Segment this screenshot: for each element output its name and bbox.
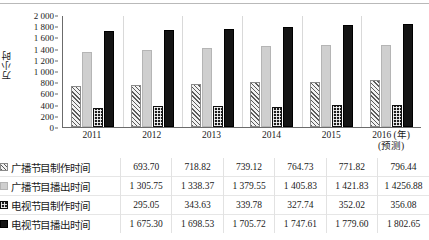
table-row: 电视节目制作时间295.05343.63339.78327.74352.0235… <box>0 196 429 215</box>
bar <box>142 50 152 127</box>
table-cell: 1 779.60 <box>326 215 377 234</box>
table-cell: 1 405.83 <box>275 177 326 196</box>
bar <box>224 29 234 127</box>
table-cell: 771.82 <box>326 158 377 177</box>
table-cell: 1 338.37 <box>172 177 223 196</box>
bar <box>392 105 402 127</box>
table-row: 电视节目播出时间1 675.301 698.531 705.721 747.61… <box>0 215 429 234</box>
table-row: 广播节目播出时间1 305.751 338.371 379.551 405.83… <box>0 177 429 196</box>
y-tick-label: 1 200 <box>34 56 54 65</box>
bar-group <box>361 16 421 127</box>
x-axis-sublabel: (预测) <box>361 141 421 152</box>
y-tick-label: 200 <box>41 112 55 121</box>
y-tick-label: 1 600 <box>34 34 54 43</box>
x-axis-label: 2014 <box>241 130 301 156</box>
y-tick-mark <box>55 105 58 106</box>
bar-groups <box>63 16 421 127</box>
y-tick-mark <box>55 128 58 129</box>
bar <box>321 45 331 127</box>
data-table-wrapper: 广播节目制作时间693.70718.82739.12764.73771.8279… <box>0 158 429 240</box>
y-tick-label: 800 <box>41 79 55 88</box>
bar <box>202 48 212 127</box>
x-axis-label: 2015 <box>301 130 361 156</box>
bar <box>272 107 282 127</box>
bar <box>82 52 92 127</box>
table-cell: 1 802.65 <box>378 215 429 234</box>
table-cell: 343.63 <box>172 196 223 215</box>
bar <box>261 46 271 127</box>
x-axis-label: 2011 <box>62 130 122 156</box>
y-tick-label: 1 000 <box>34 68 54 77</box>
x-axis-label: 2016 (年)(预测) <box>361 130 421 156</box>
table-cell: 739.12 <box>223 158 274 177</box>
x-axis-label-text: 2015 <box>322 130 341 140</box>
table-cell: 1 421.83 <box>326 177 377 196</box>
x-axis-label-text: 2014 <box>262 130 281 140</box>
x-axis-label: 2012 <box>122 130 182 156</box>
table-cell: 339.78 <box>223 196 274 215</box>
legend-swatch-icon <box>0 163 8 171</box>
series-name: 电视节目制作时间 <box>11 201 89 212</box>
y-tick-label: 1 800 <box>34 23 54 32</box>
bar <box>93 108 103 127</box>
y-tick-mark <box>55 49 58 50</box>
bar <box>104 31 114 127</box>
series-name: 广播节目制作时间 <box>11 163 89 174</box>
bar <box>370 80 380 127</box>
bar <box>343 25 353 127</box>
series-legend-label: 电视节目播出时间 <box>0 215 121 234</box>
series-legend-label: 广播节目制作时间 <box>0 158 121 177</box>
series-legend-label: 广播节目播出时间 <box>0 177 121 196</box>
series-legend-label: 电视节目制作时间 <box>0 196 121 215</box>
y-tick-mark <box>55 94 58 95</box>
table-cell: 1 747.61 <box>275 215 326 234</box>
table-cell: 1 675.30 <box>121 215 172 234</box>
y-tick-label: 2 000 <box>34 12 54 21</box>
table-cell: 693.70 <box>121 158 172 177</box>
y-axis-title: 万小时 <box>2 50 18 80</box>
table-cell: 796.44 <box>378 158 429 177</box>
y-axis-ticks: 02004006008001 0001 2001 4001 6001 8002 … <box>18 16 58 128</box>
x-axis-label: 2013 <box>182 130 242 156</box>
table-cell: 718.82 <box>172 158 223 177</box>
y-tick-mark <box>55 60 58 61</box>
bar-group <box>302 16 362 127</box>
y-tick-label: 1 400 <box>34 45 54 54</box>
table-row: 广播节目制作时间693.70718.82739.12764.73771.8279… <box>0 158 429 177</box>
bar-group <box>242 16 302 127</box>
x-axis-label-text: 2016 (年) <box>372 130 410 140</box>
data-table: 广播节目制作时间693.70718.82739.12764.73771.8279… <box>0 158 429 233</box>
table-cell: 356.08 <box>378 196 429 215</box>
x-axis-unit: (年) <box>391 130 410 140</box>
y-tick-mark <box>55 116 58 117</box>
bar <box>191 84 201 127</box>
chart-figure: 万小时 02004006008001 0001 2001 4001 6001 8… <box>0 0 429 240</box>
table-cell: 327.74 <box>275 196 326 215</box>
bar <box>283 27 293 127</box>
table-cell: 1 305.75 <box>121 177 172 196</box>
legend-swatch-icon <box>0 182 8 190</box>
table-cell: 1 698.53 <box>172 215 223 234</box>
y-tick-mark <box>55 16 58 17</box>
bar <box>403 24 413 127</box>
bar-group <box>123 16 183 127</box>
x-axis-label-text: 2011 <box>83 130 102 140</box>
table-cell: 764.73 <box>275 158 326 177</box>
bar <box>250 82 260 127</box>
legend-swatch-icon <box>0 201 8 209</box>
x-axis-labels: 201120122013201420152016 (年)(预测) <box>62 130 421 156</box>
table-cell: 1 379.55 <box>223 177 274 196</box>
y-tick-mark <box>55 27 58 28</box>
bar <box>310 82 320 127</box>
bar <box>381 45 391 127</box>
plot-area <box>62 16 421 128</box>
x-axis-label-text: 2012 <box>142 130 161 140</box>
table-cell: 1 705.72 <box>223 215 274 234</box>
bar-group <box>182 16 242 127</box>
bar <box>153 106 163 127</box>
bar <box>213 106 223 127</box>
y-tick-mark <box>55 72 58 73</box>
bar-chart: 万小时 02004006008001 0001 2001 4001 6001 8… <box>0 8 429 136</box>
bar <box>131 85 141 127</box>
series-name: 电视节目播出时间 <box>11 220 89 231</box>
